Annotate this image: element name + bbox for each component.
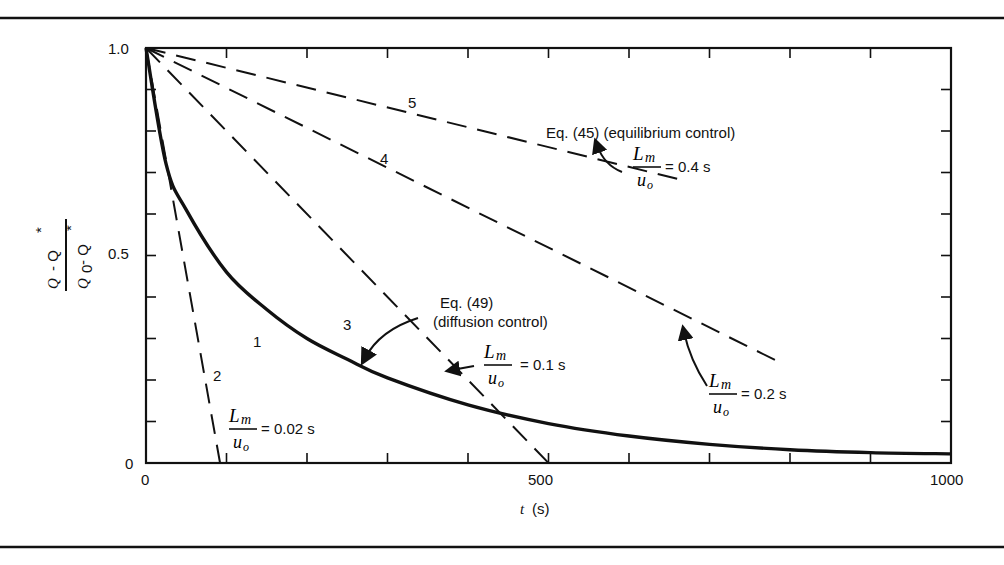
arrow-0.2: [684, 332, 707, 386]
svg-text:Q: Q: [45, 278, 61, 289]
curve-3: [146, 48, 549, 463]
curve-label-5: 5: [408, 94, 416, 111]
x-tick-1000: 1000: [930, 471, 963, 488]
label-lm-uo-0.4: L m u o = 0.4 s: [632, 143, 710, 192]
eq49-annotation-sub: (diffusion control): [433, 313, 548, 330]
svg-text:m: m: [241, 412, 251, 427]
svg-text:= 0.02 s: = 0.02 s: [261, 420, 315, 437]
x-tick-0: 0: [141, 471, 149, 488]
x-axis-label-t: t: [520, 501, 525, 517]
svg-text:= 0.4 s: = 0.4 s: [665, 158, 710, 175]
curve-label-2: 2: [213, 367, 221, 384]
svg-text:L: L: [708, 370, 720, 391]
svg-text:= 0.2 s: = 0.2 s: [741, 385, 786, 402]
svg-text:- Q: - Q: [74, 244, 91, 265]
plot-curves: [146, 48, 951, 463]
eq49-annotation: Eq. (49): [440, 294, 493, 311]
curve-5: [146, 48, 685, 181]
y-tick-0.5: 0.5: [108, 245, 129, 262]
x-tick-500: 500: [528, 471, 553, 488]
svg-text:o: o: [647, 178, 653, 192]
y-tick-1.0: 1.0: [108, 40, 129, 57]
svg-text:*: *: [62, 225, 79, 231]
svg-text:Q: Q: [75, 278, 91, 289]
svg-text:m: m: [645, 150, 655, 165]
curve-2: [146, 48, 220, 463]
curve-label-1: 1: [253, 333, 261, 350]
figure: 1.0 0.5 0 0 500 1000 t (s) Q - Q * Q 0 -…: [0, 0, 1004, 565]
svg-text:= 0.1 s: = 0.1 s: [520, 356, 565, 373]
curve-label-4: 4: [380, 150, 388, 167]
svg-text:u: u: [233, 432, 242, 452]
svg-text:*: *: [32, 227, 49, 233]
svg-text:o: o: [498, 376, 504, 390]
label-lm-uo-0.2: L m u o = 0.2 s: [708, 370, 786, 419]
label-lm-uo-0.1: L m u o = 0.1 s: [483, 341, 565, 390]
y-tick-0: 0: [125, 455, 133, 472]
svg-text:o: o: [243, 440, 249, 454]
svg-text:L: L: [632, 143, 644, 164]
arrow-0.4: [597, 145, 622, 172]
svg-text:- Q: - Q: [44, 250, 61, 271]
y-axis-label: Q - Q * Q 0 - Q *: [32, 219, 95, 291]
svg-text:m: m: [496, 348, 506, 363]
x-axis-label-unit: (s): [532, 500, 550, 517]
arrow-eq49: [365, 318, 418, 358]
axis-ticks: [146, 48, 951, 463]
eq45-annotation: Eq. (45) (equilibrium control): [546, 124, 735, 141]
svg-text:m: m: [721, 377, 731, 392]
svg-text:o: o: [723, 405, 729, 419]
svg-text:u: u: [637, 170, 646, 190]
label-lm-uo-0.02: L m u o = 0.02 s: [228, 405, 315, 454]
curve-label-3: 3: [343, 316, 351, 333]
svg-text:L: L: [483, 341, 495, 362]
svg-text:u: u: [713, 397, 722, 417]
svg-text:u: u: [488, 368, 497, 388]
plot-frame: [146, 48, 951, 463]
svg-text:L: L: [228, 405, 240, 426]
